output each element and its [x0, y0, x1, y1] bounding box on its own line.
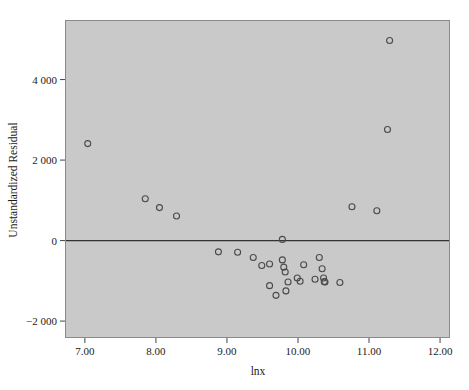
y-tick-label: 2 000 — [32, 154, 57, 166]
plot-canvas: 7.008.009.0010.0011.0012.00 4 0002 0000−… — [0, 0, 469, 390]
x-axis-tick-labels: 7.008.009.0010.0011.0012.00 — [75, 345, 453, 357]
x-axis-ticks — [85, 338, 440, 343]
y-axis-tick-labels: 4 0002 0000−2 000 — [26, 74, 57, 328]
x-tick-label: 10.00 — [286, 345, 311, 357]
scatter-plot-figure: 7.008.009.0010.0011.0012.00 4 0002 0000−… — [0, 0, 469, 390]
x-tick-label: 8.00 — [146, 345, 166, 357]
y-axis-title: Unstandardized Residual — [7, 122, 19, 237]
y-tick-label: 4 000 — [32, 74, 57, 86]
y-tick-label: −2 000 — [26, 315, 57, 327]
y-tick-label: 0 — [52, 235, 58, 247]
x-tick-label: 12.00 — [428, 345, 453, 357]
x-axis-title: lnx — [251, 365, 266, 377]
x-tick-label: 11.00 — [357, 345, 382, 357]
x-tick-label: 9.00 — [217, 345, 237, 357]
plot-area-background — [65, 20, 450, 338]
x-tick-label: 7.00 — [75, 345, 95, 357]
y-axis-ticks — [60, 80, 65, 322]
